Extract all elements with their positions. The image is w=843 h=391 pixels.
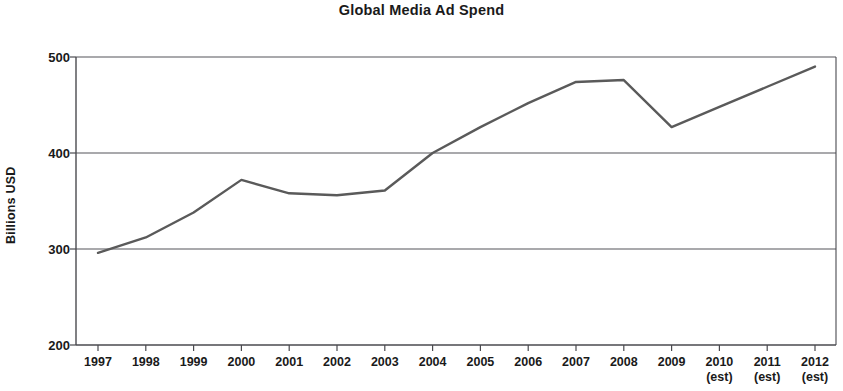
x-axis-ticks	[98, 345, 815, 351]
x-tick-label-2006: 2006	[514, 355, 542, 370]
x-tick-sublabel-2010: (est)	[705, 370, 733, 385]
x-tick-label-2009: 2009	[658, 355, 686, 370]
x-tick-sublabel-2012: (est)	[801, 370, 829, 385]
x-tick-label-2004: 2004	[419, 355, 447, 370]
plot-area	[0, 0, 843, 391]
x-tick-label-2003: 2003	[371, 355, 399, 370]
x-tick-label-2002: 2002	[323, 355, 351, 370]
x-tick-label-1998: 1998	[132, 355, 160, 370]
gridlines	[76, 57, 836, 249]
x-tick-sublabel-2011: (est)	[754, 370, 781, 385]
x-tick-label-1999: 1999	[180, 355, 208, 370]
x-tick-label-2001: 2001	[275, 355, 303, 370]
axis-lines	[76, 57, 836, 345]
chart-container: Global Media Ad Spend Billions USD 500 4…	[0, 0, 843, 391]
x-tick-label-2012: 2012(est)	[801, 355, 829, 385]
x-tick-label-2011: 2011(est)	[754, 355, 781, 385]
x-tick-label-2007: 2007	[562, 355, 590, 370]
y-axis-ticks	[70, 57, 76, 345]
x-tick-label-2005: 2005	[466, 355, 494, 370]
x-tick-label-2008: 2008	[610, 355, 638, 370]
x-tick-label-1997: 1997	[84, 355, 112, 370]
x-tick-label-2010: 2010(est)	[705, 355, 733, 385]
data-line-series-0	[98, 67, 815, 253]
x-tick-label-2000: 2000	[227, 355, 255, 370]
